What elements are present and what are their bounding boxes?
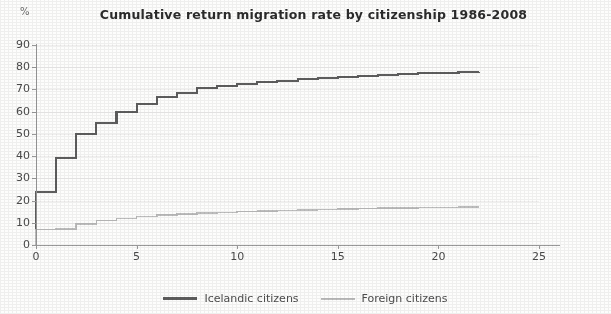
x-tick-mark [539,245,540,249]
x-tick-mark [137,245,138,249]
legend-item-icelandic-citizens[interactable]: Icelandic citizens [163,292,298,305]
y-tick-mark [32,223,36,224]
y-tick-label: 40 [0,149,30,162]
x-tick-label: 25 [524,250,554,263]
y-tick-label: 60 [0,105,30,118]
y-tick-mark [32,45,36,46]
legend-item-foreign-citizens[interactable]: Foreign citizens [321,292,448,305]
y-tick-label: 70 [0,82,30,95]
series-lines [36,45,539,245]
x-tick-label: 10 [222,250,252,263]
x-axis-line [36,245,560,246]
legend-swatch-icelandic [163,297,197,300]
legend-label-foreign: Foreign citizens [362,292,448,305]
y-tick-mark [32,178,36,179]
y-tick-mark [32,134,36,135]
y-tick-mark [32,89,36,90]
series-line-foreign-citizens [36,207,479,245]
x-tick-mark [237,245,238,249]
x-tick-mark [438,245,439,249]
x-tick-mark [338,245,339,249]
y-tick-label: 20 [0,194,30,207]
x-tick-label: 15 [323,250,353,263]
y-tick-label: 50 [0,127,30,140]
y-tick-label: 30 [0,171,30,184]
y-tick-label: 80 [0,60,30,73]
y-tick-label: 10 [0,216,30,229]
x-tick-mark [36,245,37,249]
series-line-icelandic-citizens [36,72,479,245]
y-tick-label: 90 [0,38,30,51]
y-tick-mark [32,67,36,68]
y-tick-mark [32,112,36,113]
legend-label-icelandic: Icelandic citizens [204,292,298,305]
y-tick-mark [32,156,36,157]
y-axis-line [36,44,37,246]
y-tick-mark [32,201,36,202]
plot-area [36,45,539,245]
chart-legend: Icelandic citizens Foreign citizens [0,292,611,305]
chart-title: Cumulative return migration rate by citi… [8,7,611,22]
chart-container: % Cumulative return migration rate by ci… [0,0,611,314]
legend-swatch-foreign [321,298,355,300]
x-tick-label: 0 [21,250,51,263]
x-tick-label: 5 [122,250,152,263]
x-tick-label: 20 [423,250,453,263]
